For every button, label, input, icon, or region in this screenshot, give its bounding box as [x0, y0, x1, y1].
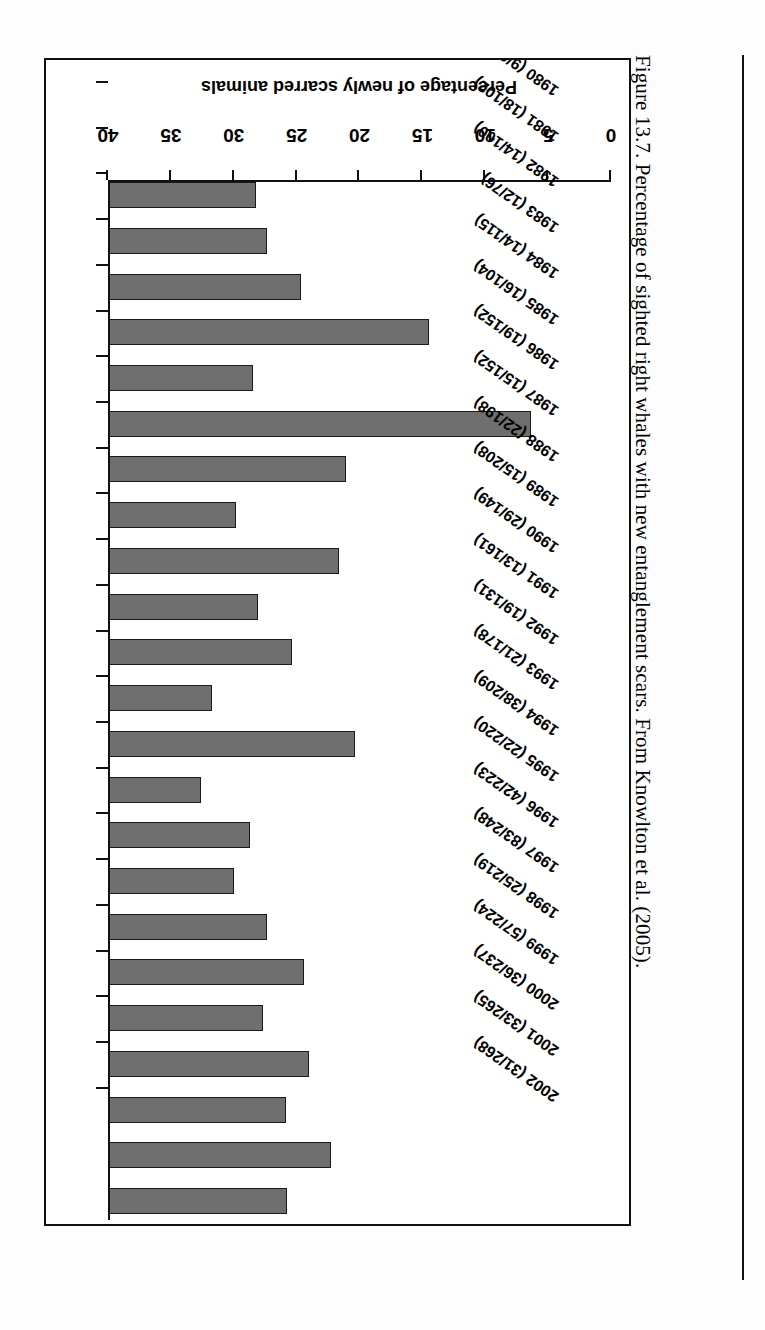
- plot-area: 0510152025303540 Percentage of newly sca…: [46, 60, 629, 1224]
- bar-row: [108, 594, 611, 620]
- bar: [108, 822, 250, 848]
- value-tick-label: 35: [160, 124, 181, 146]
- bar-row: [108, 639, 611, 665]
- bar: [108, 685, 212, 711]
- bar: [108, 319, 429, 345]
- bar-row: [108, 182, 611, 208]
- category-tick: [96, 264, 108, 266]
- category-tick: [96, 813, 108, 815]
- value-tick: [169, 170, 171, 180]
- category-tick: [96, 904, 108, 906]
- bar-row: [108, 457, 611, 483]
- value-tick: [232, 170, 234, 180]
- chart-rotated-group: 0510152025303540 Percentage of newly sca…: [46, 60, 629, 1224]
- bar-row: [108, 502, 611, 528]
- category-tick: [96, 447, 108, 449]
- bar: [108, 274, 301, 300]
- y-axis-title: Percentage of newly scarred animals: [89, 76, 629, 97]
- bar: [108, 777, 201, 803]
- bar-row: [108, 228, 611, 254]
- chart-figure: 0510152025303540 Percentage of newly sca…: [44, 58, 631, 1226]
- bar-row: [108, 822, 611, 848]
- bar-row: [108, 365, 611, 391]
- category-tick: [96, 401, 108, 403]
- bar: [108, 502, 236, 528]
- bar: [108, 1188, 287, 1214]
- bar: [108, 1005, 263, 1031]
- category-tick: [96, 310, 108, 312]
- figure-caption: Figure 13.7. Percentage of sighted right…: [595, 55, 655, 1280]
- value-tick-label: 10: [475, 124, 496, 146]
- bar: [108, 1142, 331, 1168]
- value-tick-label: 5: [543, 124, 554, 146]
- category-tick: [96, 538, 108, 540]
- bar-row: [108, 1142, 611, 1168]
- category-tick: [96, 630, 108, 632]
- bar-row: [108, 1188, 611, 1214]
- bar-row: [108, 319, 611, 345]
- value-tick: [420, 170, 422, 180]
- category-tick: [96, 1041, 108, 1043]
- value-tick: [546, 170, 548, 180]
- category-axis: [108, 180, 110, 1220]
- bar-row: [108, 868, 611, 894]
- bar-row: [108, 731, 611, 757]
- category-tick: [96, 767, 108, 769]
- value-tick-label: 25: [286, 124, 307, 146]
- value-tick-label: 30: [223, 124, 244, 146]
- bar-series: [108, 182, 611, 1214]
- value-tick: [295, 170, 297, 180]
- category-tick: [96, 995, 108, 997]
- bar-row: [108, 411, 611, 437]
- bar: [108, 868, 234, 894]
- bar: [108, 548, 339, 574]
- category-tick: [96, 218, 108, 220]
- bar: [108, 182, 256, 208]
- bar-row: [108, 777, 611, 803]
- bar: [108, 1051, 309, 1077]
- value-axis: [108, 180, 611, 182]
- bar-row: [108, 1005, 611, 1031]
- category-tick: [96, 858, 108, 860]
- bar: [108, 365, 253, 391]
- figure-page: 0510152025303540 Percentage of newly sca…: [0, 0, 765, 1330]
- category-tick: [96, 950, 108, 952]
- caption-divider-rule: [742, 55, 744, 1280]
- bar: [108, 731, 355, 757]
- category-tick: [96, 355, 108, 357]
- value-tick: [358, 170, 360, 180]
- category-tick: [96, 721, 108, 723]
- bar: [108, 959, 304, 985]
- bar-row: [108, 1051, 611, 1077]
- bar-row: [108, 274, 611, 300]
- bar-row: [108, 914, 611, 940]
- bar-row: [108, 1097, 611, 1123]
- category-tick: [96, 1087, 108, 1089]
- bar: [108, 594, 258, 620]
- category-tick: [96, 81, 108, 83]
- category-tick: [96, 492, 108, 494]
- value-tick-label: 20: [349, 124, 370, 146]
- bar: [108, 228, 267, 254]
- bar: [108, 639, 292, 665]
- category-tick: [96, 127, 108, 129]
- category-tick: [96, 172, 108, 174]
- bar-row: [108, 959, 611, 985]
- value-tick-label: 15: [412, 124, 433, 146]
- bar: [108, 1097, 286, 1123]
- value-tick: [483, 170, 485, 180]
- bar: [108, 411, 531, 437]
- bar-row: [108, 685, 611, 711]
- bar-row: [108, 548, 611, 574]
- category-tick: [96, 675, 108, 677]
- category-tick: [96, 584, 108, 586]
- bar: [108, 914, 267, 940]
- bar: [108, 457, 346, 483]
